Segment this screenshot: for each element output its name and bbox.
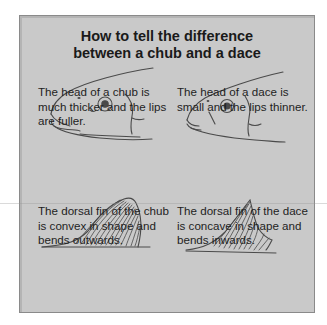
dace-head-caption: The head of a dace is small and the lips…: [177, 85, 309, 114]
diagram-title: How to tell the difference between a chu…: [20, 28, 314, 62]
chub-fin-caption: The dorsal fin of the chub is convex in …: [38, 204, 170, 248]
chub-head-caption: The head of a chub is much thicker and t…: [38, 85, 170, 129]
dace-fin-caption: The dorsal fin of the dace is concave in…: [177, 204, 309, 248]
title-line-1: How to tell the difference: [20, 28, 314, 45]
title-line-2: between a chub and a dace: [20, 45, 314, 62]
scan-artifact-line: [0, 203, 327, 204]
comparison-panel: How to tell the difference between a chu…: [19, 15, 315, 313]
